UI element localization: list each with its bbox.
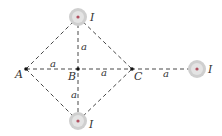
diagram-canvas: I I I A B C a a a a a [0, 0, 222, 136]
point-a-dot [24, 67, 28, 71]
wire-top: I [69, 8, 95, 26]
distance-label-bc: a [101, 67, 107, 78]
current-out-dot-icon [195, 67, 198, 70]
current-out-dot-icon [76, 15, 79, 18]
wire-right-label: I [207, 63, 213, 76]
dashed-lines [26, 17, 196, 121]
distance-label-b-bottom: a [71, 89, 77, 100]
point-b-dot [76, 67, 80, 71]
point-b-label: B [67, 70, 76, 83]
distance-label-ab: a [50, 58, 56, 69]
point-a-label: A [14, 68, 23, 81]
wire-configuration-diagram: I I I A B C a a a a a [0, 0, 222, 136]
wire-bottom: I [69, 112, 94, 131]
distance-label-b-top: a [81, 41, 87, 52]
current-out-dot-icon [76, 119, 79, 122]
point-c-label: C [134, 70, 143, 83]
wire-top-label: I [89, 11, 95, 24]
distance-label-c-wire: a [163, 68, 169, 79]
wire-bottom-label: I [88, 118, 94, 131]
wire-right: I [188, 60, 213, 78]
